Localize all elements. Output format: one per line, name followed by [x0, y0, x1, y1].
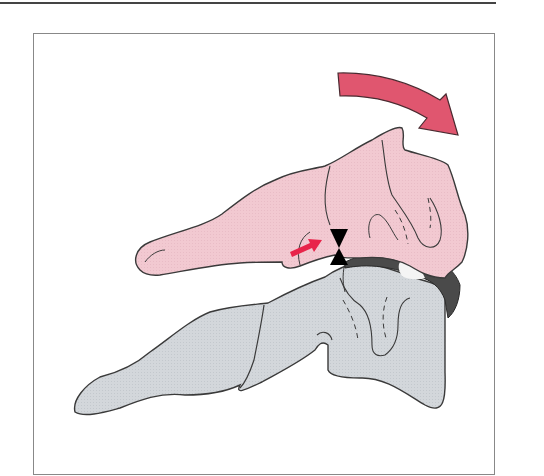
lower-vertebra — [75, 262, 446, 415]
rotation-arrow-icon — [338, 73, 458, 135]
upper-vertebra — [136, 128, 468, 278]
vertebrae-illustration — [0, 0, 544, 476]
